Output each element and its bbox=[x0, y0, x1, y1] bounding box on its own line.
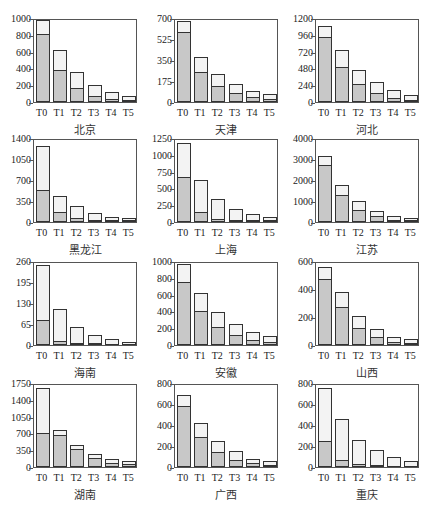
y-tick-mark bbox=[170, 312, 174, 313]
x-tick-label: T1 bbox=[50, 350, 68, 361]
chart-panel: 0175350525700T0T1T2T3T4T5天津 bbox=[141, 19, 282, 141]
bar-group bbox=[88, 261, 102, 345]
y-tick-mark bbox=[170, 61, 174, 62]
y-tick-mark bbox=[170, 405, 174, 406]
bar-part bbox=[352, 84, 366, 102]
bar-group bbox=[387, 261, 401, 345]
x-tick-label: T0 bbox=[33, 472, 51, 483]
panel-title: 上海 bbox=[174, 241, 278, 257]
y-tick-mark bbox=[29, 468, 33, 469]
bar-part bbox=[318, 279, 332, 345]
y-tick-mark bbox=[29, 69, 33, 70]
bar-group bbox=[122, 138, 136, 222]
plot-area bbox=[174, 384, 278, 468]
bar-part bbox=[88, 458, 102, 467]
x-tick-label: T5 bbox=[401, 107, 419, 118]
bar-part bbox=[263, 99, 277, 102]
bar-part bbox=[53, 212, 67, 222]
bar-group bbox=[88, 383, 102, 467]
chart-panel: 02004006008001000T0T1T2T3T4T5安徽 bbox=[141, 262, 282, 384]
y-tick-label: 1250 bbox=[152, 134, 172, 144]
bar-group bbox=[229, 138, 243, 222]
plot-area bbox=[33, 139, 137, 223]
bar-part bbox=[211, 86, 225, 102]
bar-group bbox=[318, 261, 332, 345]
x-tick-label: T4 bbox=[102, 472, 120, 483]
bar-group bbox=[370, 261, 384, 345]
x-tick-label: T1 bbox=[50, 472, 68, 483]
bar-total bbox=[404, 461, 418, 467]
bar-group bbox=[211, 383, 225, 467]
bar-group bbox=[387, 383, 401, 467]
x-tick-label: T3 bbox=[367, 107, 385, 118]
bar-group bbox=[36, 383, 50, 467]
bar-part bbox=[229, 220, 243, 222]
y-tick-mark bbox=[311, 19, 315, 20]
panel-title: 北京 bbox=[33, 121, 137, 137]
bar-part bbox=[352, 210, 366, 222]
bar-part bbox=[53, 435, 67, 467]
bar-group bbox=[370, 383, 384, 467]
bar-group bbox=[194, 138, 208, 222]
bar-part bbox=[194, 72, 208, 102]
y-tick-mark bbox=[29, 103, 33, 104]
bar-part bbox=[352, 328, 366, 345]
chart-panel: 0350700105014001750T0T1T2T3T4T5湖南 bbox=[0, 384, 141, 505]
bar-part bbox=[229, 335, 243, 345]
bar-part bbox=[122, 464, 136, 467]
y-tick-mark bbox=[29, 401, 33, 402]
x-tick-label: T3 bbox=[226, 350, 244, 361]
y-tick-mark bbox=[29, 262, 33, 263]
bar-total bbox=[122, 342, 136, 345]
x-tick-label: T2 bbox=[208, 350, 226, 361]
panel-title: 广西 bbox=[174, 486, 278, 502]
x-tick-label: T2 bbox=[208, 227, 226, 238]
bar-part bbox=[88, 343, 102, 345]
x-tick-label: T1 bbox=[191, 227, 209, 238]
x-tick-label: T4 bbox=[102, 350, 120, 361]
bar-part bbox=[36, 320, 50, 345]
y-tick-mark bbox=[311, 405, 315, 406]
plot-area bbox=[174, 139, 278, 223]
y-tick-mark bbox=[311, 223, 315, 224]
x-tick-label: T3 bbox=[85, 472, 103, 483]
bar-group bbox=[246, 261, 260, 345]
bar-group bbox=[88, 18, 102, 102]
bar-part bbox=[370, 93, 384, 102]
bar-part bbox=[318, 165, 332, 222]
bar-group bbox=[211, 18, 225, 102]
panel-title: 山西 bbox=[315, 364, 419, 380]
plot-area bbox=[33, 262, 137, 346]
bar-part bbox=[70, 343, 84, 345]
y-tick-mark bbox=[311, 346, 315, 347]
y-tick-mark bbox=[311, 384, 315, 385]
x-tick-label: T3 bbox=[367, 227, 385, 238]
bar-part bbox=[36, 190, 50, 222]
x-tick-label: T4 bbox=[243, 472, 261, 483]
plot-area bbox=[174, 19, 278, 103]
bar-group bbox=[122, 383, 136, 467]
x-tick-label: T2 bbox=[349, 227, 367, 238]
bar-group bbox=[177, 138, 191, 222]
bar-group bbox=[352, 383, 366, 467]
x-tick-label: T5 bbox=[401, 350, 419, 361]
bar-part bbox=[370, 337, 384, 345]
bar-group bbox=[229, 18, 243, 102]
bar-group bbox=[105, 383, 119, 467]
bar-group bbox=[105, 138, 119, 222]
y-tick-mark bbox=[170, 156, 174, 157]
y-tick-mark bbox=[170, 447, 174, 448]
bar-part bbox=[318, 441, 332, 467]
y-tick-mark bbox=[29, 451, 33, 452]
y-tick-mark bbox=[29, 223, 33, 224]
bar-group bbox=[177, 18, 191, 102]
x-tick-label: T1 bbox=[191, 107, 209, 118]
y-tick-mark bbox=[311, 139, 315, 140]
y-tick-mark bbox=[29, 434, 33, 435]
y-tick-mark bbox=[29, 86, 33, 87]
bar-part bbox=[370, 216, 384, 222]
y-tick-mark bbox=[311, 160, 315, 161]
bar-part bbox=[335, 307, 349, 345]
bar-group bbox=[263, 18, 277, 102]
y-tick-mark bbox=[170, 279, 174, 280]
